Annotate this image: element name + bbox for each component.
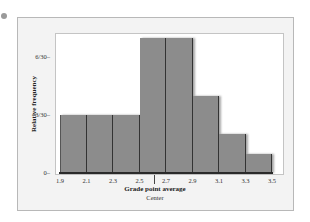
histogram-bar [193, 96, 220, 173]
histogram-bar [219, 134, 246, 173]
x-tick-label: 2.1 [77, 177, 97, 184]
x-tick-label: 2.5 [130, 177, 150, 184]
histogram-bar [246, 154, 273, 173]
center-marker [154, 175, 155, 184]
x-tick-label: 3.5 [262, 177, 282, 184]
x-tick-label: 2.9 [183, 177, 203, 184]
x-tick-label: 3.1 [209, 177, 229, 184]
histogram-bar [113, 115, 140, 173]
x-axis-baseline [59, 172, 273, 174]
x-tick-label: 2.7 [156, 177, 176, 184]
x-tick-label: 2.3 [103, 177, 123, 184]
histogram-bar [140, 38, 167, 173]
y-axis-title: Relative frequency [30, 54, 38, 154]
x-tick-label: 1.9 [50, 177, 70, 184]
histogram-bar [166, 38, 193, 173]
x-axis-title: Grade point average [100, 185, 210, 193]
y-tick-label-0: 0– [20, 169, 50, 176]
x-tick-label: 3.3 [236, 177, 256, 184]
x-axis-subtitle: Center [100, 194, 210, 201]
bullet-marker [1, 13, 7, 19]
histogram-bar [87, 115, 114, 173]
histogram-bar [60, 115, 87, 173]
